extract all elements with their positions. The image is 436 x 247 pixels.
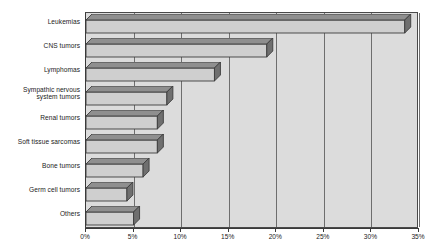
category-axis-labels: LeukemiasCNS tumorsLymphomasSympathic ne… — [0, 12, 80, 228]
x-tickmark-6 — [370, 228, 371, 232]
bar-8 — [86, 206, 142, 227]
category-label-0: Leukemias — [0, 18, 80, 26]
x-tickmark-0 — [85, 228, 86, 232]
x-axis-labels: 0%5%10%15%20%25%30%35% — [0, 230, 436, 247]
bar-4 — [86, 110, 165, 131]
x-tickmark-4 — [275, 228, 276, 232]
category-label-2: Lymphomas — [0, 66, 80, 74]
category-label-1: CNS tumors — [0, 42, 80, 50]
bar-shape-4 — [86, 110, 165, 131]
x-tick-label-0: 0% — [80, 233, 90, 240]
x-tick-label-5: 25% — [316, 233, 329, 240]
x-tickmark-5 — [323, 228, 324, 232]
x-tickmark-3 — [228, 228, 229, 232]
category-label-4: Renal tumors — [0, 114, 80, 122]
x-tick-label-2: 10% — [174, 233, 187, 240]
bar-3 — [86, 86, 175, 107]
x-tick-label-7: 35% — [411, 233, 424, 240]
bar-shape-6 — [86, 158, 151, 179]
bar-5 — [86, 134, 165, 155]
bar-shape-0 — [86, 14, 413, 35]
x-tickmark-7 — [418, 228, 419, 232]
x-tickmark-1 — [133, 228, 134, 232]
category-label-5: Soft tissue sarcomas — [0, 138, 80, 146]
gridline-35pct — [419, 13, 420, 227]
bar-shape-2 — [86, 62, 222, 83]
bar-shape-8 — [86, 206, 142, 227]
bar-1 — [86, 38, 275, 59]
category-label-3: Sympathic nervous system tumors — [0, 86, 80, 101]
x-tick-label-3: 15% — [221, 233, 234, 240]
bar-shape-5 — [86, 134, 165, 155]
x-tick-label-1: 5% — [128, 233, 138, 240]
bar-shape-1 — [86, 38, 275, 59]
bar-chart: LeukemiasCNS tumorsLymphomasSympathic ne… — [0, 0, 436, 247]
plot-area — [85, 12, 418, 228]
bar-shape-7 — [86, 182, 135, 203]
category-label-7: Germ cell tumors — [0, 186, 80, 194]
x-tick-label-6: 30% — [364, 233, 377, 240]
category-label-8: Others — [0, 210, 80, 218]
bar-0 — [86, 14, 413, 35]
bars-container — [86, 13, 417, 227]
x-tick-label-4: 20% — [269, 233, 282, 240]
bar-6 — [86, 158, 151, 179]
x-tickmark-2 — [180, 228, 181, 232]
bar-shape-3 — [86, 86, 175, 107]
category-label-6: Bone tumors — [0, 162, 80, 170]
bar-2 — [86, 62, 222, 83]
x-axis-line — [85, 228, 418, 229]
bar-7 — [86, 182, 135, 203]
